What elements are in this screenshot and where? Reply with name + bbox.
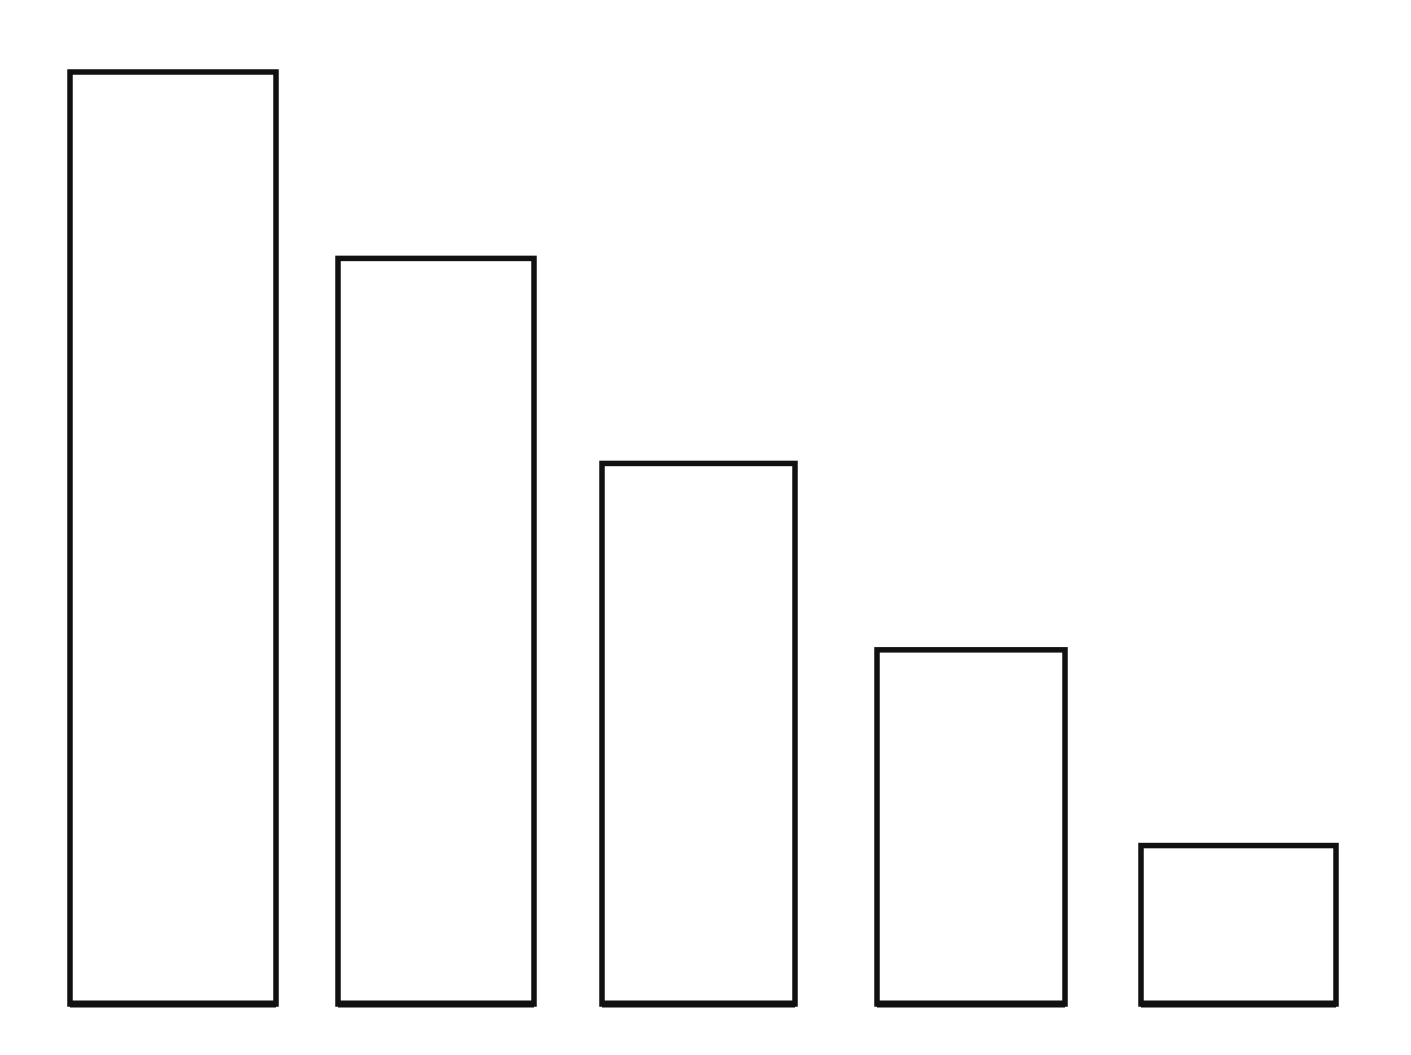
bar-outline	[70, 72, 276, 1004]
bar-4	[877, 650, 1065, 1004]
bar-outline	[338, 258, 534, 1004]
bar-2	[338, 258, 534, 1004]
bar-5	[1141, 846, 1336, 1004]
bar-outline	[877, 650, 1065, 1004]
bar-3	[602, 463, 795, 1004]
bar-group	[70, 72, 1336, 1004]
bar-1	[70, 72, 276, 1004]
bar-outline	[602, 463, 795, 1004]
bar-outline	[1141, 846, 1336, 1004]
bar-chart	[0, 0, 1411, 1055]
